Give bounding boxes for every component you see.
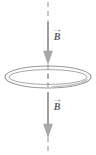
field-label-bottom: → B [53,98,61,112]
vector-arrow-accent-bottom: → [52,98,63,102]
vector-arrow-accent-top: → [52,28,63,32]
magnetic-field-loop-diagram: → B → B [0,0,96,155]
field-arrow-bottom-head [44,124,53,137]
diagram-canvas [0,0,96,155]
field-arrow-top-head [44,51,53,64]
field-label-top: → B [53,28,61,42]
